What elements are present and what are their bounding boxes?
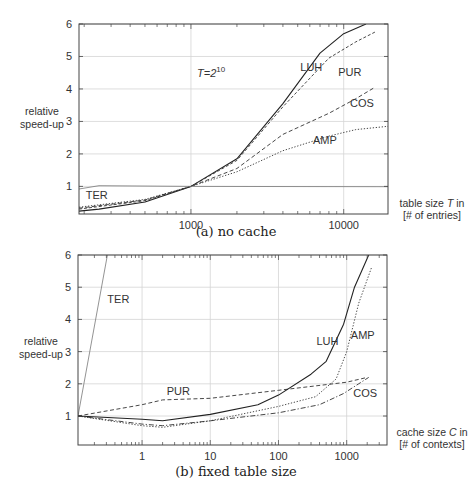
y-tick-label: 6 xyxy=(65,249,71,261)
series-label-pur: PUR xyxy=(338,66,361,78)
series-line-pur xyxy=(78,377,367,416)
series-label-amp: AMP xyxy=(313,134,337,146)
figure: 123456100010000 LUHPURCOSAMPTER relative… xyxy=(0,0,475,494)
y-tick-label: 6 xyxy=(66,18,72,30)
series-line-amp xyxy=(79,126,388,207)
y-tick-label: 3 xyxy=(65,346,71,358)
y-tick-label: 2 xyxy=(66,148,72,160)
y-tick-label: 5 xyxy=(66,50,72,62)
y-tick-label: 3 xyxy=(66,115,72,127)
series-label-ter: TER xyxy=(107,293,129,305)
x-tick-label: 100 xyxy=(269,450,287,462)
x-tick-label: 1000 xyxy=(334,450,358,462)
series-line-ter xyxy=(78,255,107,416)
chart-b-xlabel-line1: cache size C in xyxy=(396,426,467,438)
chart-a-grid xyxy=(79,24,388,214)
y-tick-label: 1 xyxy=(65,410,71,422)
chart-a-ylabel-line2: speed-up xyxy=(20,118,64,130)
chart-a-xlabel-line2: [# of entries] xyxy=(403,209,461,221)
y-tick-label: 4 xyxy=(66,83,72,95)
chart-b-caption: (b) fixed table size xyxy=(175,464,297,479)
chart-b-series-labels: TERPURLUHAMPCOS xyxy=(107,293,377,398)
series-label-luh: LUH xyxy=(316,335,338,347)
chart-b-ylabel-line1: relative xyxy=(24,335,58,347)
chart-a-caption: (a) no cache xyxy=(196,224,277,239)
x-tick-label: 1 xyxy=(139,450,145,462)
chart-a-annotation: T=210 xyxy=(197,65,226,79)
chart-a-series-labels: LUHPURCOSAMPTER xyxy=(86,61,374,201)
chart-b-ticks: 1234561101001000 xyxy=(65,249,387,462)
series-label-cos: COS xyxy=(350,97,374,109)
annotation-sup: 10 xyxy=(216,65,225,74)
chart-a-series xyxy=(79,24,388,211)
series-label-pur: PUR xyxy=(167,385,190,397)
y-tick-label: 2 xyxy=(65,378,71,390)
x-tick-label: 10 xyxy=(204,450,216,462)
series-label-ter: TER xyxy=(86,189,108,201)
series-label-amp: AMP xyxy=(351,329,375,341)
chart-a-no-cache: 123456100010000 LUHPURCOSAMPTER relative… xyxy=(20,18,464,239)
chart-a-ticks: 123456100010000 xyxy=(66,18,388,231)
series-line-pur xyxy=(79,32,375,209)
annotation-main: T=2 xyxy=(197,67,216,79)
series-line-luh xyxy=(79,24,366,211)
chart-b-xlabel-line2: [# of contexts] xyxy=(399,438,464,450)
series-line-amp xyxy=(78,268,371,427)
chart-a-frame xyxy=(79,24,388,214)
y-tick-label: 1 xyxy=(66,180,72,192)
chart-a-xlabel-line1: table size T in xyxy=(400,197,465,209)
series-label-cos: COS xyxy=(353,387,377,399)
chart-b-ylabel-line2: speed-up xyxy=(19,348,63,360)
chart-b-fixed-table-size: 1234561101001000 TERPURLUHAMPCOS relativ… xyxy=(19,249,468,479)
y-tick-label: 5 xyxy=(65,281,71,293)
x-tick-label: 10000 xyxy=(328,219,359,231)
chart-a-ylabel-line1: relative xyxy=(25,105,59,117)
series-line-cos xyxy=(79,87,375,208)
series-label-luh: LUH xyxy=(300,61,322,73)
y-tick-label: 4 xyxy=(65,313,71,325)
